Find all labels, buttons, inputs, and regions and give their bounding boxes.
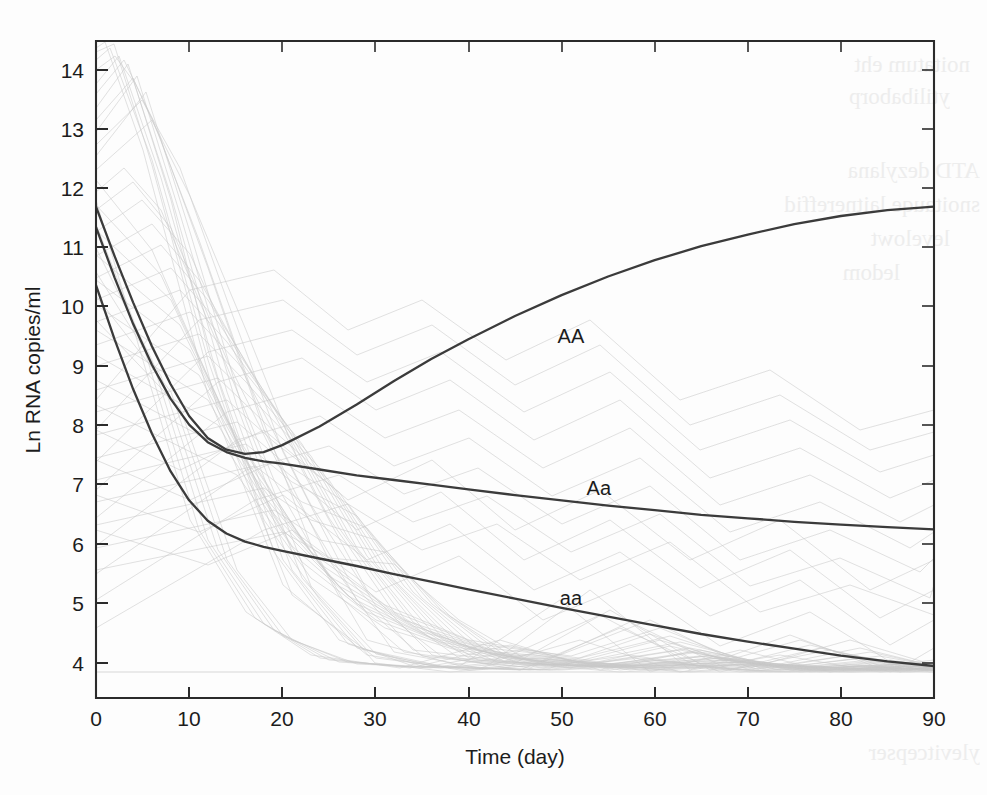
annotation-Aa: Aa bbox=[587, 477, 612, 499]
y-tick-label: 5 bbox=[72, 592, 84, 615]
svg-text:ylevitcepser: ylevitcepser bbox=[869, 740, 980, 765]
x-tick-label: 50 bbox=[550, 707, 573, 730]
y-tick-label: 13 bbox=[61, 118, 84, 141]
x-tick-label: 90 bbox=[922, 707, 945, 730]
y-tick-label: 8 bbox=[72, 414, 84, 437]
y-axis-ticks bbox=[96, 70, 934, 663]
x-tick-label: 80 bbox=[829, 707, 852, 730]
x-tick-label: 20 bbox=[270, 707, 293, 730]
curve-annotations: AA Aa aa bbox=[558, 325, 612, 609]
y-axis-tick-labels: 14 13 12 11 10 9 8 7 6 5 4 bbox=[61, 59, 85, 675]
svg-text:snoitauqe laitnereffid: snoitauqe laitnereffid bbox=[784, 192, 980, 217]
scan-bleedthrough-artifact: noitatum eht ytilibaborp ATD dezylana sn… bbox=[784, 52, 980, 765]
patient-trajectory-group bbox=[96, 42, 934, 672]
annotation-aa: aa bbox=[560, 587, 583, 609]
y-tick-label: 12 bbox=[61, 177, 84, 200]
svg-text:ATD dezylana: ATD dezylana bbox=[848, 158, 980, 183]
x-tick-label: 0 bbox=[90, 707, 102, 730]
x-tick-label: 10 bbox=[177, 707, 200, 730]
x-tick-label: 40 bbox=[457, 707, 480, 730]
y-tick-label: 10 bbox=[61, 295, 84, 318]
y-axis-title: Ln RNA copies/ml bbox=[21, 287, 44, 454]
y-tick-label: 11 bbox=[62, 236, 84, 259]
y-tick-label: 6 bbox=[72, 533, 84, 556]
rna-decay-chart: noitatum eht ytilibaborp ATD dezylana sn… bbox=[0, 0, 987, 795]
figure-panel: noitatum eht ytilibaborp ATD dezylana sn… bbox=[0, 0, 987, 795]
y-tick-label: 7 bbox=[72, 473, 84, 496]
x-tick-label: 60 bbox=[643, 707, 666, 730]
x-tick-label: 30 bbox=[363, 707, 386, 730]
x-axis-tick-labels: 0 10 20 30 40 50 60 70 80 90 bbox=[90, 707, 946, 730]
svg-text:noitatum eht: noitatum eht bbox=[854, 52, 970, 77]
x-axis-title: Time (day) bbox=[465, 745, 565, 768]
svg-text:ledom: ledom bbox=[842, 260, 900, 285]
x-tick-label: 70 bbox=[736, 707, 759, 730]
y-tick-label: 14 bbox=[61, 59, 85, 82]
y-tick-label: 4 bbox=[72, 652, 84, 675]
svg-text:levelowt: levelowt bbox=[870, 226, 950, 251]
y-tick-label: 9 bbox=[72, 355, 84, 378]
annotation-AA: AA bbox=[558, 325, 585, 347]
